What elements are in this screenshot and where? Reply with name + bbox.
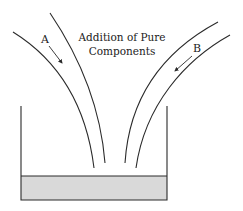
title-line-2: Components — [89, 45, 156, 57]
stream-b-arrow-icon — [175, 56, 192, 71]
stream-a-label: A — [40, 33, 50, 46]
diagram-canvas: A B Addition of Pure Components — [0, 0, 243, 211]
stream-a-arrow-icon — [49, 46, 62, 63]
stream-b-inner-edge — [125, 22, 218, 163]
stream-b-label: B — [193, 42, 201, 55]
liquid-layer — [21, 176, 167, 200]
title-line-1: Addition of Pure — [78, 31, 166, 43]
